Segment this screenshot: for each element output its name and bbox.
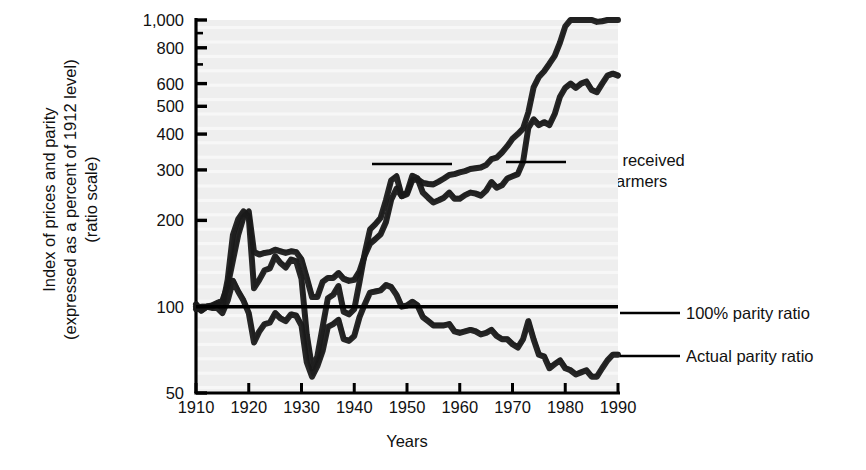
background-texture-band — [196, 127, 618, 130]
background-texture-band — [196, 357, 618, 360]
background-texture-band — [196, 141, 618, 144]
background-texture-band — [196, 69, 618, 72]
background-texture-band — [196, 271, 618, 274]
plot-canvas — [0, 0, 866, 470]
background-texture-band — [196, 26, 618, 29]
background-texture-band — [196, 40, 618, 43]
background-texture-band — [196, 372, 618, 375]
background-texture-band — [196, 98, 618, 101]
chart-figure: Index of prices and parity (expressed as… — [0, 0, 866, 470]
background-texture-band — [196, 228, 618, 231]
background-texture-band — [196, 314, 618, 317]
background-texture-band — [196, 199, 618, 202]
background-texture-band — [196, 213, 618, 216]
background-texture-band — [196, 84, 618, 87]
background-texture-band — [196, 343, 618, 346]
background-texture-band — [196, 285, 618, 288]
background-texture-band — [196, 156, 618, 159]
background-texture-band — [196, 170, 618, 173]
background-texture-band — [196, 242, 618, 245]
